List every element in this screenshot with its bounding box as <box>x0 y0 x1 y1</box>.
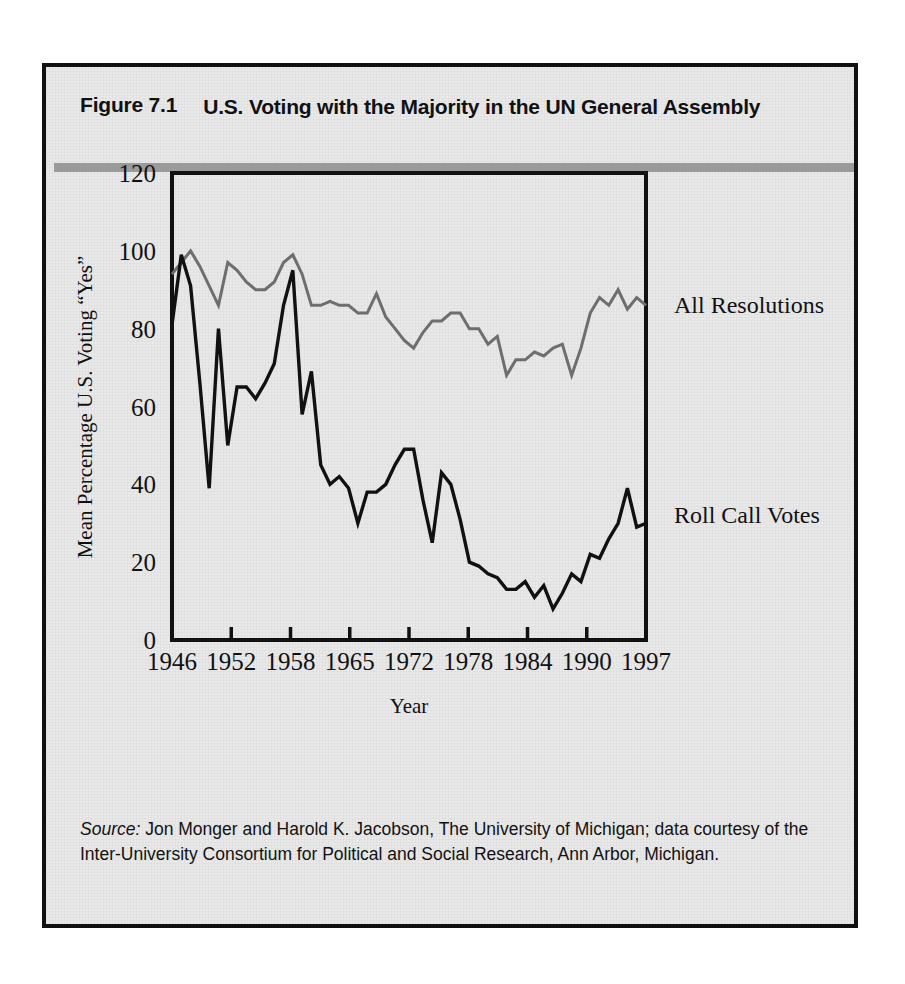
source-label: Source: <box>80 819 140 839</box>
source-note: Source: Jon Monger and Harold K. Jacobso… <box>80 817 828 868</box>
chart-plot-area: 020406080100120 194619521958196519721978… <box>46 67 862 932</box>
y-axis-title: Mean Percentage U.S. Voting “Yes” <box>73 256 97 559</box>
y-tick-label: 40 <box>131 471 156 498</box>
series-line-roll-call-votes <box>172 255 646 609</box>
series-label-roll-call-votes: Roll Call Votes <box>674 502 820 528</box>
x-tick-label: 1972 <box>384 648 434 675</box>
x-axis-tick-labels: 194619521958196519721978198419901997 <box>147 648 671 675</box>
series-line-all-resolutions <box>172 251 646 376</box>
x-tick-label: 1965 <box>325 648 375 675</box>
data-series-lines <box>172 251 646 609</box>
x-tick-label: 1946 <box>147 648 197 675</box>
plot-frame <box>172 173 646 640</box>
y-tick-label: 100 <box>119 238 157 265</box>
x-tick-label: 1952 <box>206 648 256 675</box>
figure-container: Figure 7.1 U.S. Voting with the Majority… <box>42 63 858 928</box>
x-tick-label: 1997 <box>621 648 671 675</box>
series-annotations: All ResolutionsRoll Call Votes <box>674 292 824 528</box>
source-text: Jon Monger and Harold K. Jacobson, The U… <box>80 819 808 864</box>
y-tick-label: 80 <box>131 316 156 343</box>
line-chart-svg: 020406080100120 194619521958196519721978… <box>46 67 862 827</box>
x-tick-label: 1990 <box>562 648 612 675</box>
y-axis-tick-labels: 020406080100120 <box>119 160 157 654</box>
series-label-all-resolutions: All Resolutions <box>674 292 824 318</box>
x-tick-label: 1978 <box>443 648 493 675</box>
y-tick-label: 20 <box>131 549 156 576</box>
x-axis-title: Year <box>390 694 429 718</box>
x-tick-label: 1984 <box>503 648 554 675</box>
x-tick-label: 1958 <box>266 648 316 675</box>
y-tick-label: 120 <box>119 160 157 187</box>
y-tick-label: 60 <box>131 394 156 421</box>
